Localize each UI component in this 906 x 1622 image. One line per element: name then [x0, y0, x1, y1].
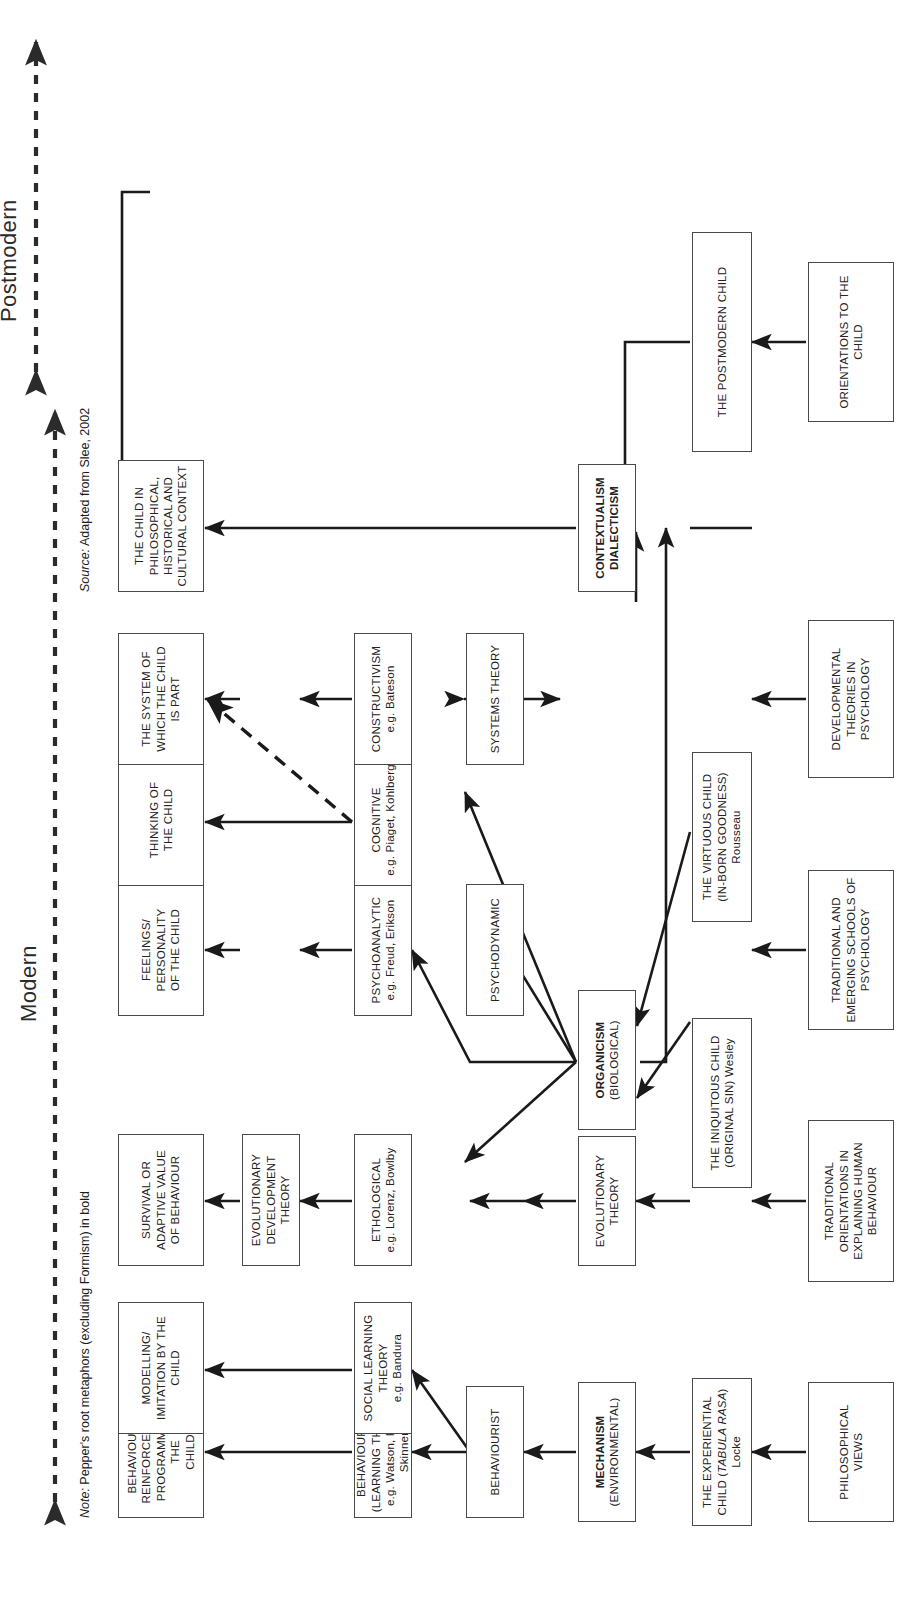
- outcome-thinking-of-child: THINKING OF THE CHILD: [118, 754, 204, 886]
- era-label-modern: Modern: [16, 945, 42, 1022]
- row-header-developmental-theories: DEVELOPMENTAL THEORIES IN PSYCHOLOGY: [808, 620, 894, 778]
- outcome-modelling-imitation: MODELLING/ IMITATION BY THE CHILD: [118, 1302, 204, 1434]
- outcome-child-in-context: THE CHILD IN PHILOSOPHICAL, HISTORICAL A…: [118, 460, 204, 592]
- source-text: Adapted from Slee, 2002: [78, 408, 92, 546]
- footnote-caption: Note: Pepper's root metaphors (excluding…: [78, 1191, 92, 1518]
- diagram-page: Postmodern Modern PHILOSOPHICAL VIEWS TR…: [0, 0, 906, 1622]
- philosophical-view-experiential-child: THE EXPERIENTIAL CHILD (TABULA RASA) Loc…: [692, 1378, 752, 1526]
- school-behaviourist: BEHAVIOURIST: [466, 1386, 524, 1518]
- footnote-prefix: Note:: [78, 1488, 92, 1518]
- row-header-philosophical-views: PHILOSOPHICAL VIEWS: [808, 1382, 894, 1522]
- theory-cognitive: COGNITIVE e.g. Piaget, Kohlberg: [354, 754, 412, 886]
- row-header-schools-of-psychology: TRADITIONAL AND EMERGING SCHOOLS OF PSYC…: [808, 870, 894, 1030]
- root-metaphor-evolutionary-theory: EVOLUTIONARY THEORY: [578, 1136, 636, 1266]
- source-prefix: Source:: [78, 549, 92, 592]
- theory-evolutionary-development: EVOLUTIONARY DEVELOPMENT THEORY: [242, 1134, 300, 1266]
- row-header-traditional-orientations: TRADITIONAL ORIENTATIONS IN EXPLAINING H…: [808, 1120, 894, 1282]
- theory-ethological: ETHOLOGICAL e.g. Lorenz, Bowlby: [354, 1134, 412, 1266]
- era-label-postmodern: Postmodern: [0, 199, 22, 322]
- philosophical-view-iniquitous-child: THE INIQUITOUS CHILD (ORIGINAL SIN) Wesl…: [692, 1018, 752, 1188]
- outcome-system-of-child: THE SYSTEM OF WHICH THE CHILD IS PART: [118, 633, 204, 765]
- outcome-survival-adaptive-value: SURVIVAL OR ADAPTIVE VALUE OF BEHAVIOUR: [118, 1134, 204, 1266]
- school-systems-theory: SYSTEMS THEORY: [466, 633, 524, 765]
- theory-social-learning: SOCIAL LEARNING THEORY e.g. Bandura: [354, 1302, 412, 1434]
- row-header-orientations-to-child: ORIENTATIONS TO THE CHILD: [808, 262, 894, 422]
- footnote-text: Pepper's root metaphors (excluding Formi…: [78, 1191, 92, 1484]
- diagram-canvas: Postmodern Modern PHILOSOPHICAL VIEWS TR…: [0, 0, 906, 1622]
- theory-psychoanalytic: PSYCHOANALYTIC e.g. Freud, Erikson: [354, 884, 412, 1016]
- root-metaphor-mechanism: MECHANISM (ENVIRONMENTAL): [578, 1382, 636, 1522]
- root-metaphor-organicism: ORGANICISM (BIOLOGICAL): [578, 990, 636, 1130]
- philosophical-view-virtuous-child: THE VIRTUOUS CHILD (IN-BORN GOODNESS) Ro…: [692, 752, 752, 922]
- tabula-rasa-italic: TABULA RASA: [716, 1392, 728, 1472]
- root-metaphor-contextualism-dialecticism: CONTEXTUALISM DIALECTICISM: [578, 464, 636, 592]
- philosophical-view-postmodern-child: THE POSTMODERN CHILD: [692, 232, 752, 452]
- source-caption: Source: Adapted from Slee, 2002: [78, 408, 92, 592]
- school-psychodynamic: PSYCHODYNAMIC: [466, 884, 524, 1016]
- outcome-feelings-personality: FEELINGS/ PERSONALITY OF THE CHILD: [118, 884, 204, 1016]
- theory-constructivism: CONSTRUCTIVISM e.g. Bateson: [354, 633, 412, 765]
